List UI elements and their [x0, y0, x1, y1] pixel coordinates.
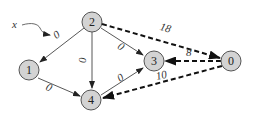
node-4: 4 [81, 90, 101, 110]
edge-label-2-0: 18 [159, 20, 173, 35]
node-4-label: 4 [88, 93, 94, 107]
node-3-label: 3 [151, 54, 157, 68]
node-1-label: 1 [26, 63, 32, 77]
edge-label-2-3: 0 [116, 39, 128, 52]
node-2: 2 [82, 12, 102, 32]
annotation-x-label: x [11, 18, 17, 30]
edge-label-2-1: 0 [51, 28, 63, 41]
edge-label-1-4: 0 [44, 80, 55, 93]
edge-label-4-3: 0 [115, 70, 127, 83]
edge-label-2-4: 0 [76, 57, 88, 63]
edge-label-0-3: 8 [186, 46, 192, 58]
graph-diagram: x 0 0 0 0 0 18 8 10 2 1 4 3 0 [0, 0, 254, 114]
edge-2-1 [40, 28, 84, 62]
node-1: 1 [19, 60, 39, 80]
node-0-label: 0 [228, 54, 234, 68]
node-0: 0 [221, 51, 241, 71]
node-2-label: 2 [89, 15, 95, 29]
annotation-pointer [22, 24, 50, 35]
node-3: 3 [144, 51, 164, 71]
edge-1-4 [38, 78, 80, 96]
